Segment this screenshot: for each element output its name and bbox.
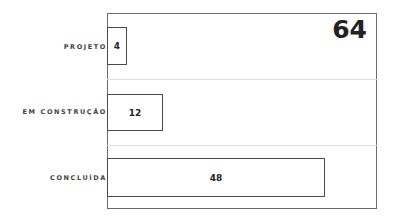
bar-em-construcao: 12 — [107, 94, 163, 131]
value-label: 4 — [114, 41, 120, 51]
value-label: 48 — [210, 173, 223, 183]
category-label-concluida: CONCLUÍDA — [50, 174, 107, 182]
bar-concluida: 48 — [107, 158, 325, 197]
total-count: 64 — [332, 15, 367, 44]
bar-projeto: 4 — [107, 27, 127, 65]
category-label-projeto: PROJETO — [64, 43, 107, 51]
gridline — [107, 145, 377, 146]
category-label-em-construcao: EM CONSTRUÇÃO — [23, 108, 107, 116]
gridline — [107, 79, 377, 80]
value-label: 12 — [129, 108, 142, 118]
